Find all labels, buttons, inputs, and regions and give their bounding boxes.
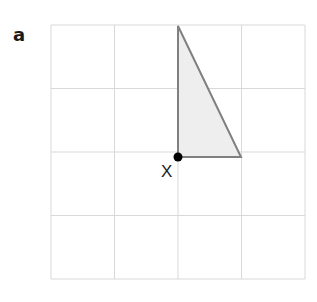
grid-diagram: X [0,0,317,302]
point-x-label: X [161,162,172,181]
shaded-triangle [178,26,241,157]
point-x-dot [174,153,183,162]
